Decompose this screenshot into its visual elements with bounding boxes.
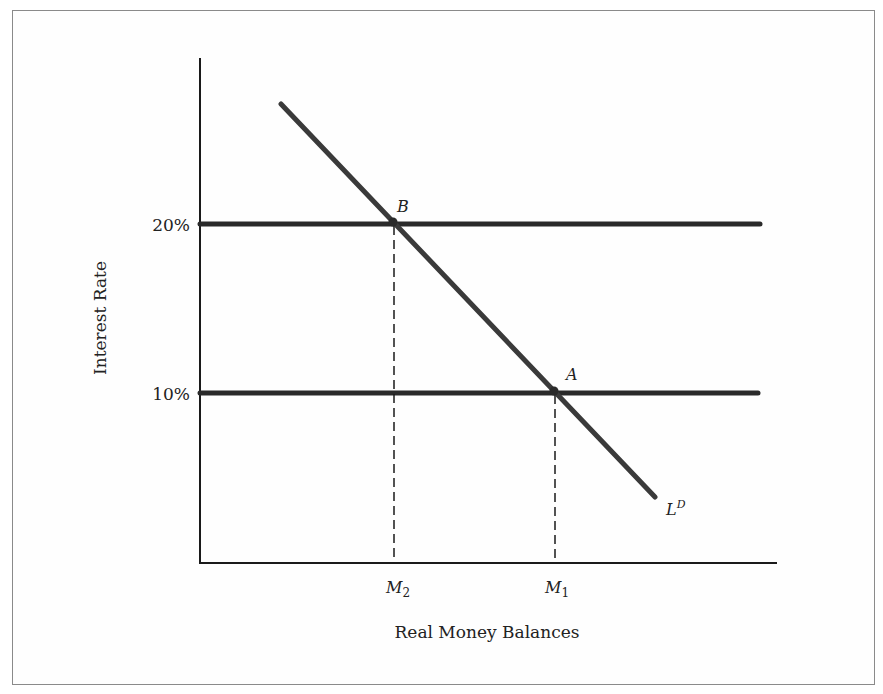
money-demand-chart: B A LD 20% 10% M2 M1 Real Money Balances… [0, 0, 883, 694]
y-axis-title: Interest Rate [90, 261, 110, 375]
y-tick-20: 20% [152, 215, 190, 235]
demand-curve [281, 104, 655, 497]
y-tick-10: 10% [152, 384, 190, 404]
x-tick-m2: M2 [385, 578, 410, 600]
point-b-marker [389, 218, 398, 227]
point-a-label: A [564, 365, 578, 384]
curve-label: LD [665, 498, 686, 519]
point-a-marker [550, 387, 559, 396]
x-axis-title: Real Money Balances [395, 622, 580, 642]
x-tick-m1: M1 [544, 578, 569, 600]
point-b-label: B [396, 197, 409, 216]
